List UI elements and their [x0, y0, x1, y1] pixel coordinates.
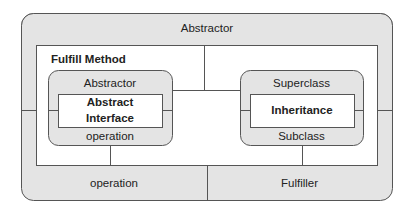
left-box-bottom-label: operation: [48, 130, 172, 142]
bottom-left-label: operation: [21, 177, 207, 189]
left-box-top-label: Abstractor: [48, 77, 172, 89]
abstract-interface-line1: Abstract: [58, 96, 162, 108]
abstract-interface-line2: Interface: [58, 112, 162, 124]
right-box-top-label: Superclass: [240, 77, 363, 89]
right-box-bottom-label: Subclass: [240, 130, 363, 142]
fulfill-method-label: Fulfill Method: [51, 53, 126, 65]
bottom-right-label: Fulfiller: [207, 177, 392, 189]
inheritance-label: Inheritance: [250, 104, 354, 116]
outer-label: Abstractor: [150, 22, 264, 34]
